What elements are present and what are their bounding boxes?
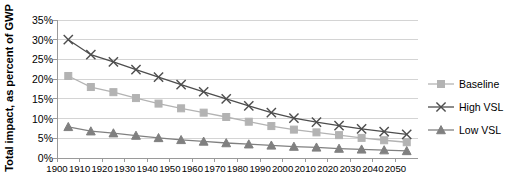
x-tick-label: 1970: [204, 163, 225, 174]
x-tick-label: 1920: [91, 163, 112, 174]
square-marker: [438, 80, 445, 87]
x-tick-label: 2030: [340, 163, 361, 174]
x-tick-label: 1910: [69, 163, 90, 174]
legend-label: Low VSL: [454, 124, 501, 136]
x-tick-label: 1900: [46, 163, 67, 174]
legend-label: High VSL: [454, 101, 503, 113]
chart-container: Total impact, as percent of GWP 0%5%10%1…: [0, 0, 523, 190]
x-tick-label: 1930: [114, 163, 135, 174]
legend-label: Baseline: [454, 78, 499, 90]
legend-item-high-vsl[interactable]: High VSL: [428, 95, 523, 118]
x-tick-label: 1990: [249, 163, 270, 174]
legend-item-baseline[interactable]: Baseline: [428, 72, 523, 95]
x-tick-label: 2040: [362, 163, 383, 174]
triangle-marker: [428, 123, 454, 137]
x-tick-label: 2050: [385, 163, 406, 174]
clipped-caption: [150, 184, 523, 190]
square-marker: [428, 77, 454, 91]
x-tick-label: 1980: [227, 163, 248, 174]
x-tick-label: 1940: [137, 163, 158, 174]
x-tick-label: 2000: [272, 163, 293, 174]
legend-item-low-vsl[interactable]: Low VSL: [428, 118, 523, 141]
x-marker: [428, 100, 454, 114]
chart-legend: BaselineHigh VSLLow VSL: [428, 72, 523, 141]
x-tick-label: 1950: [159, 163, 180, 174]
x-tick-label: 1960: [182, 163, 203, 174]
x-tick-label: 2010: [295, 163, 316, 174]
x-tick-label: 2020: [317, 163, 338, 174]
